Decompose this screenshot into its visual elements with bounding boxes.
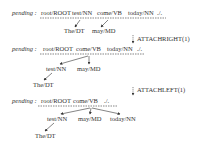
arc-test-the bbox=[75, 20, 80, 27]
pending-word-period: ./. bbox=[137, 45, 142, 52]
pending-word-come: come/VB bbox=[73, 97, 99, 104]
arc-come-test bbox=[60, 56, 88, 64]
child-word-may: may/MD bbox=[77, 65, 101, 72]
pending-word-come: come/VB bbox=[76, 45, 102, 52]
transition-attach-left: ATTACHLEFT(1) bbox=[133, 86, 185, 95]
arc-come-may bbox=[90, 108, 91, 114]
child-word-may: may/MD bbox=[92, 27, 116, 34]
state-2: pending : root/ROOT come/VB today/NN ./.… bbox=[11, 45, 145, 88]
pending-label: pending : bbox=[11, 45, 37, 52]
pending-word-period: ./. bbox=[104, 97, 109, 104]
state-1: pending : root/ROOT test/NN come/VB toda… bbox=[11, 9, 166, 34]
action-label: ATTACHLEFT(1) bbox=[137, 86, 185, 94]
pending-word-root: root/ROOT bbox=[41, 97, 71, 104]
parser-state-diagram: pending : root/ROOT test/NN come/VB toda… bbox=[0, 0, 200, 148]
child-word-the: The/DT bbox=[35, 132, 56, 139]
arc-come-today bbox=[92, 108, 120, 114]
pending-label: pending : bbox=[11, 9, 37, 16]
pending-label: pending : bbox=[11, 97, 37, 104]
arc-test-the bbox=[44, 73, 52, 80]
pending-word-test: test/NN bbox=[72, 9, 93, 16]
pending-word-root: root/ROOT bbox=[41, 9, 71, 16]
child-word-test: test/NN bbox=[47, 115, 68, 122]
child-word-test: test/NN bbox=[46, 65, 67, 72]
arc-come-may bbox=[101, 20, 108, 27]
pending-word-come: come/VB bbox=[97, 9, 123, 16]
arc-test-the bbox=[45, 123, 54, 131]
action-label: ATTACHRIGHT(1) bbox=[137, 35, 190, 43]
pending-word-today: today/NN bbox=[107, 45, 133, 52]
transition-attach-right: ATTACHRIGHT(1) bbox=[133, 35, 190, 43]
pending-word-root: root/ROOT bbox=[43, 45, 73, 52]
child-word-today: today/NN bbox=[110, 115, 136, 122]
pending-word-today: today/NN bbox=[128, 9, 154, 16]
state-3: pending : root/ROOT come/VB ./. test/NN … bbox=[11, 97, 136, 139]
child-word-may: may/MD bbox=[78, 115, 102, 122]
child-word-the: The/DT bbox=[33, 81, 54, 88]
arc-come-test bbox=[61, 108, 90, 114]
child-word-the: The/DT bbox=[64, 27, 85, 34]
pending-word-period: ./. bbox=[157, 9, 162, 16]
